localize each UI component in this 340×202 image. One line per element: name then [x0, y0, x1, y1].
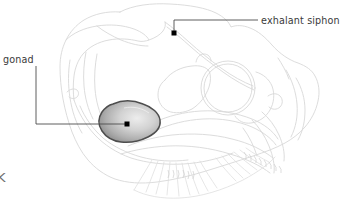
- right-lower-lobe-a: [262, 112, 284, 161]
- lower-sweep: [121, 146, 270, 173]
- fringe-ray: [222, 156, 243, 178]
- interior-fold-left-a: [84, 52, 93, 119]
- crenulation: [173, 170, 174, 178]
- fringe-ray: [146, 161, 158, 192]
- crenulation: [279, 166, 281, 173]
- gonad-organ: [99, 101, 160, 142]
- anterior-mantle-lobe: [66, 25, 149, 100]
- organ-bump: [196, 54, 211, 62]
- fringe-ray: [200, 161, 217, 188]
- fringe-ray: [182, 163, 190, 195]
- crenulation: [183, 170, 184, 178]
- dorsal-ridge: [165, 22, 253, 86]
- left-hook-detail: [67, 89, 79, 99]
- outer-mantle-outline: [60, 4, 319, 183]
- hinge-notch: [149, 22, 165, 40]
- visceral-mass-contour: [128, 134, 273, 158]
- fringe-ray: [216, 158, 236, 181]
- gonad-marker-dot: [125, 122, 130, 127]
- right-notch: [268, 94, 282, 110]
- exhalant-siphon-marker-dot: [172, 31, 177, 36]
- adductor-muscle-inner: [204, 64, 252, 112]
- crenulation: [178, 170, 179, 178]
- fringe-ray: [134, 160, 152, 190]
- corner-panel-mark: K: [0, 170, 6, 185]
- crenulation: [188, 171, 189, 179]
- gut-loop-lower: [157, 119, 276, 145]
- label-gonad: gonad: [3, 54, 34, 65]
- fringe-ray: [176, 163, 179, 196]
- fringe-ray: [156, 162, 164, 194]
- label-exhalant-siphon: exhalant siphon: [261, 15, 340, 26]
- right-lower-lobe-c: [243, 128, 257, 156]
- crenulation: [168, 170, 169, 178]
- fringe-ray: [167, 162, 170, 195]
- body-outline-group: [60, 4, 319, 183]
- crenulation: [254, 156, 256, 163]
- digestive-chamber: [158, 66, 211, 113]
- mantle-crease-upper: [97, 26, 148, 46]
- right-fold-c: [278, 58, 289, 79]
- right-fold-a: [286, 70, 297, 137]
